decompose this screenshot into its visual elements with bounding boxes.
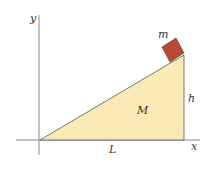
wedge-diagram: y x m M h L <box>0 0 211 182</box>
y-axis-label: y <box>29 12 37 25</box>
block-mass-label: m <box>158 28 168 41</box>
x-axis-label: x <box>191 140 198 153</box>
height-label: h <box>188 92 195 105</box>
wedge <box>40 55 184 140</box>
wedge-mass-label: M <box>136 104 149 117</box>
length-label: L <box>108 143 116 156</box>
